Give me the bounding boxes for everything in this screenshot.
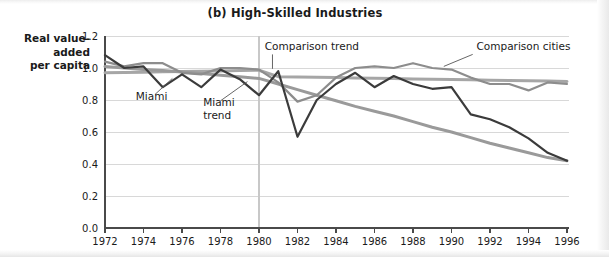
x-tick-label: 1992 — [477, 236, 502, 247]
x-tick-label: 1976 — [169, 236, 194, 247]
x-tick-label: 1984 — [323, 236, 348, 247]
y-tick-label: 0.8 — [82, 95, 98, 106]
x-tick-label: 1982 — [285, 236, 310, 247]
y-tick-label: 1.0 — [82, 63, 98, 74]
leader-line-comparison-cities — [444, 54, 473, 66]
comparison-cities-label-line-1: Comparison cities — [477, 40, 571, 52]
y-tick-label: 0.2 — [82, 191, 98, 202]
x-tick-label: 1986 — [362, 236, 387, 247]
comparison-trend-label-line-1: Comparison trend — [265, 40, 359, 52]
x-tick-label: 1988 — [400, 236, 425, 247]
x-tick-labels-group: 1972197419761978198019821984198619881990… — [92, 228, 579, 247]
figure-panel: (b) High-Skilled Industries Real value- … — [0, 0, 609, 257]
comparison-trend-label: Comparison trend — [265, 40, 359, 52]
x-tick-label: 1972 — [92, 236, 117, 247]
y-tick-label: 0.4 — [82, 159, 98, 170]
y-tick-label: 1.2 — [82, 31, 98, 42]
chart-plot: 0.00.20.40.60.81.01.2 197219741976197819… — [0, 0, 609, 257]
miami-trend-label-line-2: trend — [203, 109, 231, 121]
x-tick-label: 1994 — [516, 236, 541, 247]
x-tick-label: 1974 — [131, 236, 156, 247]
miami-trend-label: Miamitrend — [203, 96, 235, 121]
y-tick-label: 0.6 — [82, 127, 98, 138]
y-tick-labels-group: 0.00.20.40.60.81.01.2 — [82, 31, 98, 234]
y-tick-label: 0.0 — [82, 223, 98, 234]
miami-trend-label-line-1: Miami — [203, 96, 235, 108]
data-series-group — [105, 55, 567, 161]
miami-label: Miami — [136, 90, 168, 102]
comparison-cities-label: Comparison cities — [477, 40, 571, 52]
x-tick-label: 1990 — [439, 236, 464, 247]
x-tick-label: 1980 — [246, 236, 271, 247]
gridlines-group — [105, 36, 569, 196]
x-tick-label: 1996 — [554, 236, 579, 247]
miami-label-line-1: Miami — [136, 90, 168, 102]
x-tick-label: 1978 — [208, 236, 233, 247]
